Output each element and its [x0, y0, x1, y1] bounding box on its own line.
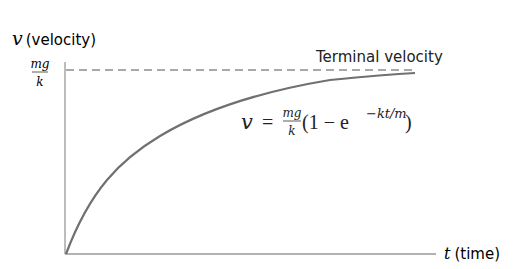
svg-text:(1 − e: (1 − e	[302, 111, 349, 134]
svg-text:v: v	[241, 110, 253, 134]
svg-text:−kt/m: −kt/m	[366, 106, 407, 121]
y-axis-label: v(velocity)	[12, 27, 96, 49]
velocity-curve	[66, 73, 415, 254]
terminal-velocity-label: Terminal velocity	[315, 48, 443, 66]
velocity-equation: v = mg k (1 − e −kt/m )	[241, 106, 412, 138]
y-tick-mg-over-k: mg k	[30, 57, 49, 89]
svg-text:mg: mg	[282, 106, 301, 120]
svg-text:k: k	[36, 75, 43, 89]
x-axis-label: t(time)	[444, 244, 500, 263]
svg-text:): )	[405, 111, 412, 134]
svg-text:mg: mg	[30, 57, 49, 71]
velocity-diagram: v(velocity) mg k Terminal velocity v = m…	[0, 0, 522, 269]
svg-text:k: k	[288, 124, 295, 138]
svg-text:=: =	[262, 111, 273, 133]
